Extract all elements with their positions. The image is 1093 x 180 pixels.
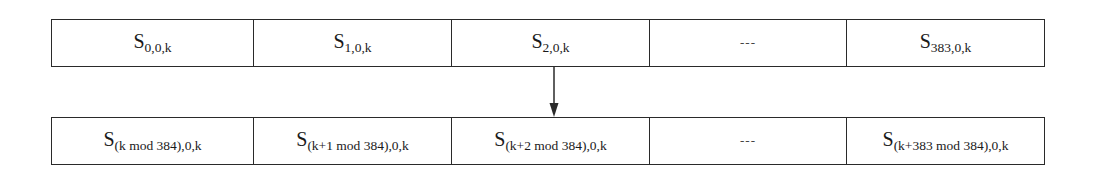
cell-subscript: 1,0,k	[345, 40, 372, 56]
rotated-cell-ellipsis: ---	[650, 118, 847, 164]
cell-symbol: S	[920, 31, 931, 51]
cell-symbol: S	[883, 129, 894, 149]
cell-symbol: S	[333, 31, 344, 51]
source-cell-383: S383,0,k	[847, 20, 1044, 66]
rotated-cell-0: S(k mod 384),0,k	[52, 118, 254, 164]
source-cell-ellipsis: ---	[650, 20, 847, 66]
cell-symbol: S	[296, 129, 307, 149]
source-cell-0: S0,0,k	[52, 20, 254, 66]
cell-symbol: S	[531, 31, 542, 51]
rotated-array-row: S(k mod 384),0,k S(k+1 mod 384),0,k S(k+…	[51, 117, 1045, 165]
cell-subscript: (k+383 mod 384),0,k	[894, 138, 1009, 154]
cell-subscript: (k+1 mod 384),0,k	[307, 138, 408, 154]
cell-symbol: S	[494, 129, 505, 149]
cell-subscript: (k mod 384),0,k	[115, 138, 202, 154]
cell-subscript: 383,0,k	[931, 40, 972, 56]
cell-subscript: (k+2 mod 384),0,k	[505, 138, 606, 154]
source-cell-1: S1,0,k	[254, 20, 452, 66]
rotated-cell-383: S(k+383 mod 384),0,k	[847, 118, 1044, 164]
cell-symbol: S	[103, 129, 114, 149]
rotated-cell-2: S(k+2 mod 384),0,k	[452, 118, 650, 164]
source-array-row: S0,0,k S1,0,k S2,0,k --- S383,0,k	[51, 19, 1045, 67]
ellipsis-text: ---	[740, 133, 756, 149]
cell-symbol: S	[133, 31, 144, 51]
down-arrow-icon	[546, 67, 562, 117]
ellipsis-text: ---	[740, 35, 756, 51]
cell-subscript: 0,0,k	[145, 40, 172, 56]
rotated-cell-1: S(k+1 mod 384),0,k	[254, 118, 452, 164]
cell-subscript: 2,0,k	[543, 40, 570, 56]
source-cell-2: S2,0,k	[452, 20, 650, 66]
